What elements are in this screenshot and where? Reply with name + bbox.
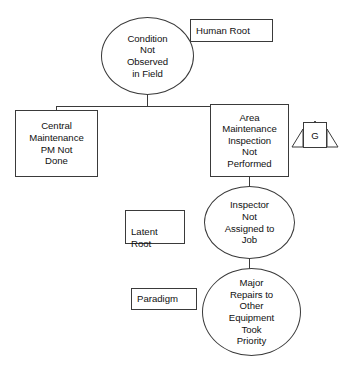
node-inspector-not-assigned-to-job[interactable]: Inspector Not Assigned to Job	[204, 186, 295, 259]
node-central-maintenance-pm-not-done[interactable]: Central Maintenance PM Not Done	[15, 110, 98, 177]
gate-triangle-left	[292, 129, 303, 147]
gate-triangle-right	[327, 129, 338, 147]
node-major-repairs-label: Major Repairs to Other Equipment Took Pr…	[227, 277, 276, 347]
node-central-maintenance-label: Central Maintenance PM Not Done	[27, 120, 85, 166]
gate-symbol: G	[289, 117, 341, 153]
node-inspector-not-assigned-label: Inspector Not Assigned to Job	[223, 199, 277, 245]
root-cause-tree-diagram: Condition Not Observed in Field Central …	[0, 0, 345, 369]
node-major-repairs-took-priority[interactable]: Major Repairs to Other Equipment Took Pr…	[202, 268, 301, 356]
node-area-maintenance-label: Area Maintenance Inspection Not Performe…	[220, 112, 278, 170]
node-condition-not-observed-in-field[interactable]: Condition Not Observed in Field	[101, 17, 194, 95]
node-condition-not-observed-label: Condition Not Observed in Field	[125, 33, 170, 79]
label-latent-root: Latent Root	[125, 210, 185, 244]
label-human-root-text: Human Root	[196, 25, 250, 37]
gate-symbol-letter: G	[311, 130, 318, 141]
label-human-root: Human Root	[190, 19, 273, 42]
label-latent-root-text: Latent Root	[131, 226, 158, 249]
label-paradigm-text: Paradigm	[137, 293, 178, 305]
node-area-maintenance-inspection-not-performed[interactable]: Area Maintenance Inspection Not Performe…	[210, 104, 289, 177]
label-paradigm: Paradigm	[131, 288, 197, 310]
